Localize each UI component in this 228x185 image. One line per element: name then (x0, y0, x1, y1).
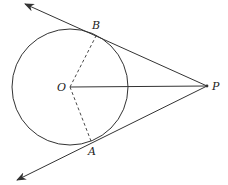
tangent-ray-pb (25, 4, 207, 86)
label-o: O (57, 81, 66, 94)
tangent-circle-diagram: B O A P (0, 0, 228, 185)
label-b: B (91, 19, 100, 32)
radius-ob (70, 34, 97, 87)
point-p (206, 85, 209, 88)
label-a: A (87, 145, 96, 158)
radius-oa (70, 87, 91, 141)
segment-op (70, 86, 207, 87)
tangent-ray-pa (17, 86, 207, 180)
label-p: P (211, 80, 220, 93)
